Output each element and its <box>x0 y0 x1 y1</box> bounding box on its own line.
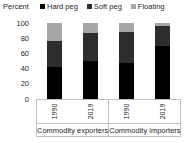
legend-label-floating: Floating <box>138 2 165 11</box>
y-tick-label: 60 <box>21 49 29 58</box>
year-labels: 1990 2019 <box>37 100 108 123</box>
stacked-bar-chart: Percent Hard peg Soft peg Floating 10080… <box>0 0 184 143</box>
bar-2019-exporters <box>83 23 98 99</box>
y-tick-label: 100 <box>16 19 29 28</box>
y-tick-label: 0 <box>25 95 29 104</box>
bar-segment-hard-peg <box>47 67 62 99</box>
x-axis: 1990 2019 Commodity exporters 1990 2019 … <box>36 100 181 137</box>
legend-item-floating: Floating <box>131 2 165 11</box>
bar-group-commodity-importers <box>109 23 182 99</box>
bar-segment-hard-peg <box>155 46 170 99</box>
year-label: 2019 <box>87 104 94 120</box>
legend-swatch-soft-peg <box>87 4 92 9</box>
bar-group-commodity-exporters <box>36 23 109 99</box>
bar-segment-hard-peg <box>119 63 134 99</box>
legend: Hard peg Soft peg Floating <box>40 2 165 11</box>
legend-item-hard-peg: Hard peg <box>40 2 78 11</box>
group-label: Commodity importers <box>109 123 180 136</box>
plot-area <box>36 23 181 100</box>
bar-1990-exporters <box>47 23 62 99</box>
bar-segment-soft-peg <box>47 41 62 68</box>
bar-segment-soft-peg <box>83 33 98 61</box>
bar-segment-floating <box>83 23 98 33</box>
y-tick-label: 40 <box>21 64 29 73</box>
bar-segment-floating <box>119 23 134 32</box>
bar-segment-soft-peg <box>155 26 170 46</box>
y-axis: 100806040200 <box>0 0 32 143</box>
year-label: 1990 <box>51 104 58 120</box>
group-commodity-exporters: 1990 2019 Commodity exporters <box>37 100 109 136</box>
bar-segment-hard-peg <box>83 61 98 99</box>
year-labels: 1990 2019 <box>109 100 180 123</box>
y-tick-label: 20 <box>21 79 29 88</box>
bar-1990-importers <box>119 23 134 99</box>
group-commodity-importers: 1990 2019 Commodity importers <box>109 100 180 136</box>
y-tick-label: 80 <box>21 34 29 43</box>
bar-segment-soft-peg <box>119 32 134 63</box>
year-label: 2019 <box>159 104 166 120</box>
legend-swatch-floating <box>131 4 136 9</box>
legend-label-soft-peg: Soft peg <box>94 2 122 11</box>
legend-swatch-hard-peg <box>40 4 45 9</box>
legend-item-soft-peg: Soft peg <box>87 2 122 11</box>
bar-2019-importers <box>155 23 170 99</box>
year-label: 1990 <box>124 104 131 120</box>
group-label: Commodity exporters <box>37 123 108 136</box>
legend-label-hard-peg: Hard peg <box>47 2 78 11</box>
bar-segment-floating <box>47 23 62 40</box>
